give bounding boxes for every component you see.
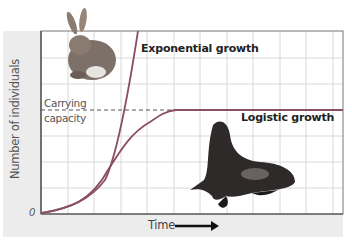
arrow-head-icon — [211, 221, 219, 231]
carrying-capacity-label-line1: Carrying — [44, 97, 86, 109]
x-axis-label: Time — [148, 218, 175, 232]
exponential-growth-label: Exponential growth — [141, 42, 259, 55]
carrying-capacity-label-line2: capacity — [44, 112, 86, 124]
logistic-growth-label: Logistic growth — [241, 111, 334, 124]
y-tick-zero: 0 — [29, 207, 35, 218]
y-axis-label: Number of individuals — [8, 44, 22, 194]
